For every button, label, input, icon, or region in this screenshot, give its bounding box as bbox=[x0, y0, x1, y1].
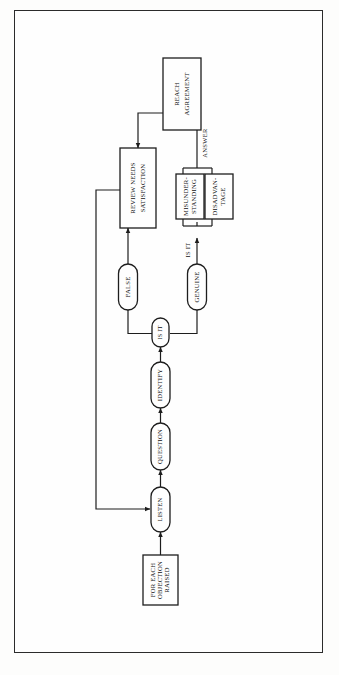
node-false[interactable]: FALSE bbox=[119, 264, 138, 310]
node-start-line3: RAISED bbox=[163, 567, 170, 592]
node-review-needs-satisfaction[interactable]: REVIEW NEEDS SATISFACTION bbox=[120, 148, 156, 228]
node-reach-line1: REACH bbox=[173, 82, 180, 106]
node-genuine-label: GENUINE bbox=[193, 271, 200, 302]
node-disadvantage-line1: DISADVAN- bbox=[211, 177, 218, 215]
node-disadvantage-line2: TAGE bbox=[219, 187, 226, 205]
edge-label-is-it: IS IT bbox=[184, 242, 191, 257]
node-is-it-label: IS IT bbox=[156, 325, 163, 339]
node-disadvantage[interactable]: DISADVAN- TAGE bbox=[205, 174, 233, 219]
node-listen-label: LISTEN bbox=[156, 497, 163, 521]
node-reach-agreement[interactable]: REACH AGREEMENT bbox=[163, 58, 201, 130]
node-for-each-objection-raised[interactable]: FOR EACH OBJECTION RAISED bbox=[143, 555, 178, 605]
node-start-line1: FOR EACH bbox=[149, 563, 156, 597]
flowchart-diagram: FOR EACH OBJECTION RAISED LISTEN QUESTIO… bbox=[0, 0, 339, 675]
edge-reach-to-review bbox=[138, 113, 163, 148]
node-question-label: QUESTION bbox=[156, 429, 163, 464]
node-misunderstanding-line1: MISUNDER- bbox=[182, 177, 189, 216]
node-review-line2: SATISFACTION bbox=[139, 164, 146, 213]
node-misunderstanding-line2: STANDING bbox=[190, 179, 197, 214]
node-question[interactable]: QUESTION bbox=[151, 423, 170, 470]
edge-label-answer: ANSWER bbox=[201, 128, 208, 158]
node-genuine[interactable]: GENUINE bbox=[188, 264, 207, 310]
edge-isit-to-genuine bbox=[170, 310, 197, 334]
node-review-line1: REVIEW NEEDS bbox=[129, 162, 136, 213]
node-false-label: FALSE bbox=[124, 277, 131, 298]
node-is-it-decision[interactable]: IS IT bbox=[152, 318, 169, 347]
edge-isit-to-false bbox=[128, 310, 152, 334]
node-listen[interactable]: LISTEN bbox=[151, 487, 170, 532]
node-misunderstanding[interactable]: MISUNDER- STANDING bbox=[176, 174, 204, 219]
node-identify[interactable]: IDENTIFY bbox=[151, 362, 170, 408]
node-start-line2: OBJECTION bbox=[156, 561, 163, 599]
edge-label-is-it-group: IS IT bbox=[184, 242, 191, 257]
page-canvas: FOR EACH OBJECTION RAISED LISTEN QUESTIO… bbox=[0, 0, 339, 675]
edge-review-to-listen-feedback bbox=[96, 190, 150, 509]
node-reach-line2: AGREEMENT bbox=[183, 73, 190, 116]
node-identify-label: IDENTIFY bbox=[156, 369, 163, 401]
edge-label-answer-group: ANSWER bbox=[201, 128, 208, 158]
